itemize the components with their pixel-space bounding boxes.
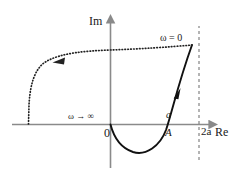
nyquist-plot-canvas <box>0 0 237 183</box>
solid-locus-curve <box>111 45 193 153</box>
tick-2a-label: 2a <box>201 126 211 137</box>
dotted-branch-direction-arrow-icon <box>53 58 66 65</box>
point-a-label: a <box>166 110 171 120</box>
point-A-label: A <box>165 127 172 138</box>
omega-infinity-annotation: ω → ∞ <box>68 112 94 121</box>
real-axis-label: Re <box>215 126 228 138</box>
origin-label: 0 <box>104 127 110 139</box>
nyquist-figure: Im Re 0 ω = 0 ω → ∞ a A 2a <box>0 0 237 183</box>
imaginary-axis-label: Im <box>89 15 102 27</box>
omega-zero-annotation: ω = 0 <box>160 33 182 43</box>
